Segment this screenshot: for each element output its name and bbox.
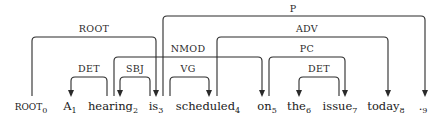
arc-label: VG	[179, 63, 195, 74]
arc-label: ADV	[295, 23, 318, 34]
token-index-subscript: 8	[400, 106, 405, 115]
token-period: .9	[419, 99, 428, 115]
arcs-layer: ROOTPADVNMODPCDETSBJVGDET ROOT0A1hearing…	[0, 0, 446, 121]
arc-line	[170, 77, 209, 96]
token-the: the6	[287, 99, 311, 115]
token-index-subscript: 0	[42, 106, 47, 115]
token-today: today8	[367, 99, 404, 115]
token-scheduled: scheduled4	[176, 99, 240, 115]
arrowhead-icon	[342, 90, 348, 97]
arc-label: DET	[308, 63, 330, 74]
arc-det: DET	[68, 63, 107, 97]
token-index-subscript: 2	[133, 106, 138, 115]
arc-line	[299, 77, 339, 96]
token-word: is	[149, 99, 159, 113]
token-word: issue	[323, 99, 353, 113]
arrowhead-icon	[117, 90, 123, 97]
token-word: hearing	[88, 99, 134, 113]
arc-det: DET	[296, 63, 339, 97]
arrowhead-icon	[206, 90, 212, 97]
token-word: the	[287, 99, 306, 113]
arrowhead-icon	[153, 90, 159, 97]
token-word: on	[257, 99, 272, 113]
token-is: is3	[149, 99, 164, 115]
arc-line	[163, 16, 425, 96]
token-index-subscript: 7	[352, 106, 357, 115]
arrowhead-icon	[422, 90, 428, 97]
token-word: today	[367, 99, 400, 113]
arc-label: PC	[300, 43, 314, 54]
arc-label: ROOT	[79, 23, 110, 34]
arc-line	[71, 77, 107, 96]
arrowhead-icon	[385, 90, 391, 97]
token-word: scheduled	[176, 99, 236, 113]
token-hearing: hearing2	[88, 99, 138, 115]
arc-label: NMOD	[171, 43, 206, 54]
arrowhead-icon	[68, 90, 74, 97]
arrowhead-icon	[296, 90, 302, 97]
token-on: on5	[257, 99, 276, 115]
arc-vg: VG	[170, 63, 212, 97]
token-root: ROOT0	[15, 102, 48, 115]
arc-line	[120, 77, 150, 96]
token-word: ROOT	[15, 102, 43, 112]
token-index-subscript: 1	[72, 106, 77, 115]
arc-group: ROOTPADVNMODPCDETSBJVGDET	[32, 3, 428, 97]
token-index-subscript: 3	[158, 106, 163, 115]
arc-root: ROOT	[32, 23, 159, 97]
token-index-subscript: 5	[272, 106, 277, 115]
arc-label: P	[290, 3, 297, 14]
token-index-subscript: 4	[235, 106, 240, 115]
arc-label: SBJ	[126, 63, 144, 74]
token-group: ROOT0A1hearing2is3scheduled4on5the6issue…	[15, 99, 428, 115]
arrowhead-icon	[259, 90, 265, 97]
token-index-subscript: 6	[306, 106, 311, 115]
token-issue: issue7	[323, 99, 358, 115]
arc-sbj: SBJ	[117, 63, 150, 97]
token-a: A1	[62, 99, 76, 115]
token-index-subscript: 9	[422, 106, 427, 115]
dependency-parse-diagram: ROOTPADVNMODPCDETSBJVGDET ROOT0A1hearing…	[0, 0, 446, 121]
arc-adv: ADV	[217, 23, 391, 97]
arc-label: DET	[78, 63, 100, 74]
